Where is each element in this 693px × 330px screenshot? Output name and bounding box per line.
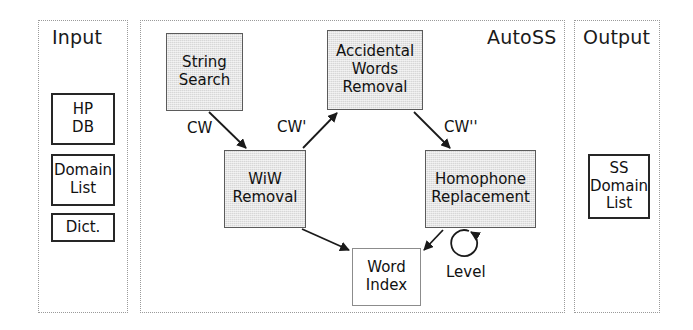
node-accidental-words-removal[interactable]: Accidental Words Removal [327, 30, 423, 110]
edge-label-cw-double-prime: CW'' [444, 118, 478, 136]
edge-label-cw-prime: CW' [277, 118, 306, 136]
panel-title-autoss: AutoSS [487, 26, 556, 48]
edge-label-level: Level [446, 263, 486, 281]
panel-title-input: Input [52, 26, 102, 48]
panel-title-output: Output [583, 26, 650, 48]
node-ss-domain-list[interactable]: SS Domain List [588, 154, 650, 219]
node-hp-db[interactable]: HP DB [51, 93, 115, 145]
node-homophone-replacement[interactable]: Homophone Replacement [425, 150, 536, 228]
node-string-search[interactable]: String Search [166, 33, 243, 111]
node-dict[interactable]: Dict. [51, 213, 115, 242]
node-domain-list[interactable]: Domain List [51, 154, 115, 206]
diagram-canvas: Input AutoSS Output HP DB Domain List Di… [0, 0, 693, 330]
node-word-index[interactable]: Word Index [352, 248, 421, 306]
node-wiw-removal[interactable]: WiW Removal [224, 150, 306, 228]
edge-label-cw: CW [187, 119, 212, 137]
